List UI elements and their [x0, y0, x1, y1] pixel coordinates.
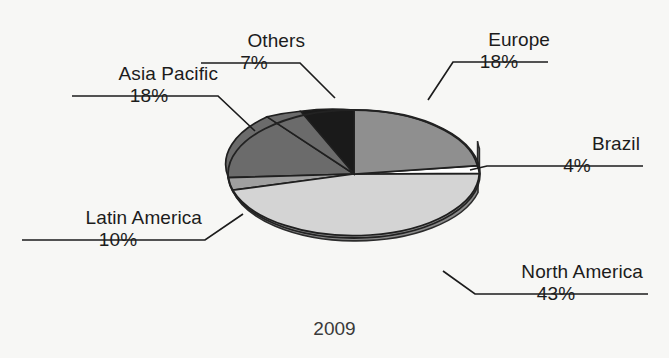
callout-brazil: Brazil 4% [510, 133, 644, 178]
callout-asia-pacific-name: Asia Pacific [76, 63, 222, 85]
callout-others-name: Others [199, 30, 309, 52]
callout-latin-america: Latin America 10% [30, 207, 206, 252]
callout-europe: Europe 18% [444, 29, 554, 74]
pie-slice-europe [354, 110, 477, 174]
callout-latin-america-name: Latin America [30, 207, 206, 229]
callout-north-america-pct: 43% [465, 283, 647, 305]
callout-brazil-name: Brazil [510, 133, 644, 155]
callout-asia-pacific-pct: 18% [76, 85, 222, 107]
callout-europe-pct: 18% [444, 51, 554, 73]
callout-brazil-pct: 4% [510, 155, 644, 177]
callout-north-america: North America 43% [465, 261, 647, 306]
callout-latin-america-pct: 10% [30, 229, 206, 251]
callout-asia-pacific: Asia Pacific 18% [76, 63, 222, 108]
pie-chart-figure: Others 7% Europe 18% Asia Pacific 18% Br… [0, 0, 669, 358]
callout-europe-name: Europe [444, 29, 554, 51]
callout-north-america-name: North America [465, 261, 647, 283]
chart-year-caption: 2009 [0, 318, 669, 340]
